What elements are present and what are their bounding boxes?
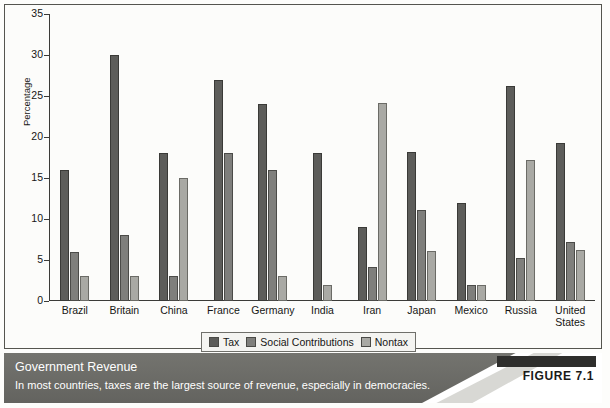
bar (169, 276, 178, 301)
bar (214, 80, 223, 301)
figure-container: Percentage 05101520253035 BrazilBritainC… (0, 0, 610, 408)
x-axis-label: Russia (496, 305, 546, 339)
bar-group (50, 14, 100, 301)
figure-chip (497, 356, 596, 367)
plot-canvas: Percentage 05101520253035 (49, 14, 595, 301)
legend-swatch-icon (209, 337, 219, 347)
bar-groups (50, 14, 595, 301)
y-tick-label: 30 (19, 48, 43, 60)
plot-area: Percentage 05101520253035 (49, 14, 593, 348)
bar-group (199, 14, 249, 301)
y-tick-mark (44, 96, 49, 97)
bar (556, 143, 565, 301)
y-tick-label: 15 (19, 171, 43, 183)
figure-label: FIGURE 7.1 (523, 369, 594, 383)
x-axis-label: China (149, 305, 199, 339)
legend-label: Tax (223, 336, 239, 348)
bar (110, 55, 119, 301)
y-tick-label: 5 (19, 253, 43, 265)
caption-title: Government Revenue (15, 360, 137, 374)
legend-label: Nontax (375, 336, 408, 348)
bar (159, 153, 168, 301)
bar (506, 86, 515, 301)
x-axis-label: Mexico (446, 305, 496, 339)
legend-item: Social Contributions (246, 336, 353, 348)
bar (407, 152, 416, 301)
bar (224, 153, 233, 301)
bar (368, 267, 377, 301)
bar-group (149, 14, 199, 301)
bar (323, 285, 332, 301)
bar (60, 170, 69, 301)
bar (457, 203, 466, 301)
y-tick-mark (44, 301, 49, 302)
bar (179, 178, 188, 301)
x-axis-label: Britain (100, 305, 150, 339)
y-tick-mark (44, 14, 49, 15)
y-axis-title: Percentage (21, 77, 32, 126)
caption-bar: Government Revenue In most countries, ta… (4, 353, 602, 403)
bar-group (397, 14, 447, 301)
legend-item: Nontax (361, 336, 408, 348)
y-tick-mark (44, 55, 49, 56)
x-axis-label: United States (545, 305, 595, 339)
bar (566, 242, 575, 301)
bar-group (496, 14, 546, 301)
x-axis-label: Brazil (50, 305, 100, 339)
legend-swatch-icon (361, 337, 371, 347)
bar (576, 250, 585, 301)
bar (278, 276, 287, 301)
bar (70, 252, 79, 301)
bar (358, 227, 367, 301)
bar (378, 103, 387, 301)
bar (80, 276, 89, 301)
y-tick-label: 25 (19, 89, 43, 101)
y-tick-mark (44, 178, 49, 179)
bar (417, 210, 426, 301)
bar (313, 153, 322, 301)
bar (268, 170, 277, 301)
bar (130, 276, 139, 301)
chart-frame: Percentage 05101520253035 BrazilBritainC… (4, 4, 602, 349)
bar-group (100, 14, 150, 301)
chart-legend: TaxSocial ContributionsNontax (201, 332, 416, 352)
bar (427, 251, 436, 301)
bar-group (446, 14, 496, 301)
bar (120, 235, 129, 301)
y-tick-label: 35 (19, 7, 43, 19)
bar (526, 160, 535, 301)
y-tick-mark (44, 260, 49, 261)
y-tick-label: 10 (19, 212, 43, 224)
bar-group (347, 14, 397, 301)
bar (477, 285, 486, 301)
bar-group (545, 14, 595, 301)
bar (467, 285, 476, 301)
y-tick-label: 20 (19, 130, 43, 142)
bar (516, 258, 525, 301)
y-tick-mark (44, 137, 49, 138)
legend-swatch-icon (246, 337, 256, 347)
caption-subtitle: In most countries, taxes are the largest… (15, 379, 430, 391)
bar-group (248, 14, 298, 301)
bar-group (298, 14, 348, 301)
y-tick-mark (44, 219, 49, 220)
y-tick-label: 0 (19, 294, 43, 306)
legend-label: Social Contributions (260, 336, 353, 348)
bar (258, 104, 267, 301)
legend-item: Tax (209, 336, 239, 348)
